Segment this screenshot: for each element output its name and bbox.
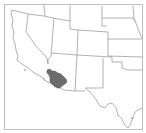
locator-map: Locator map xyxy=(0,0,146,133)
map-canvas xyxy=(0,0,146,133)
city-dot xyxy=(131,117,133,119)
city-dot xyxy=(24,69,26,71)
